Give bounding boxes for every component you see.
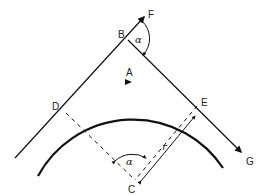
curve-tangent-diagram: B F A D E C G α α r (0, 0, 268, 195)
angle-arc-b (142, 21, 150, 55)
arc-direction-arrow-icon (125, 79, 132, 85)
circular-arc (38, 120, 223, 176)
radius-dc-dashed (66, 113, 135, 180)
label-b: B (118, 29, 125, 40)
label-a: A (126, 67, 133, 78)
label-e: E (201, 97, 208, 108)
label-c: C (128, 184, 135, 195)
label-f: F (148, 9, 154, 20)
label-d: D (52, 101, 59, 112)
angle-label-b: α (135, 34, 142, 45)
label-g: G (246, 156, 254, 167)
tangent-line-beg (128, 40, 241, 152)
angle-label-c: α (126, 156, 133, 167)
